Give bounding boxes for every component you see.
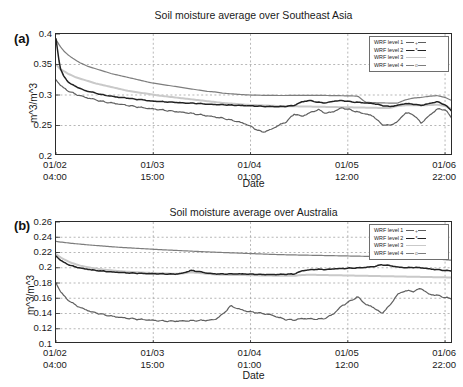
x-tick-time: 15:00: [127, 171, 177, 183]
legend-label: WRF level 4: [374, 62, 403, 70]
y-tick-label: 0.3: [18, 90, 52, 100]
chart-panel-b: (b) Soil moisture average over Australia…: [0, 193, 463, 387]
legend-item[interactable]: WRF level 1+: [374, 227, 445, 235]
y-tick-label: 0.12: [18, 323, 52, 333]
legend-item[interactable]: WRF level 4o: [374, 62, 445, 70]
legend-line-sample: o: [406, 250, 426, 258]
legend-item[interactable]: WRF level 2*: [374, 235, 445, 243]
legend-line-sample: [406, 242, 426, 250]
y-tick-label: 0.35: [18, 59, 52, 69]
x-tick-date: 01/03: [127, 347, 177, 359]
legend-line-sample: [406, 54, 426, 62]
legend-marker-circle-icon: o: [414, 251, 418, 256]
y-tick-label: 0.18: [18, 278, 52, 288]
chart-title-a: Soil moisture average over Southeast Asi…: [55, 9, 452, 21]
legend-label: WRF level 2: [374, 47, 403, 55]
y-tick-label: 0.22: [18, 247, 52, 257]
x-tick-time: 22:00: [419, 171, 463, 183]
legend-line-sample: +: [406, 39, 426, 47]
x-tick-date: 01/02: [30, 347, 80, 359]
y-tick-label: 0.25: [18, 120, 52, 130]
x-tick-time: 12:00: [322, 359, 372, 371]
x-tick-label: 01/0512:00: [322, 159, 372, 183]
x-tick-date: 01/03: [127, 159, 177, 171]
x-tick-label: 01/0622:00: [419, 159, 463, 183]
x-tick-label: 01/0622:00: [419, 347, 463, 371]
x-tick-label: 01/0315:00: [127, 347, 177, 371]
x-tick-time: 12:00: [322, 171, 372, 183]
legend-marker-plus-icon: +: [414, 40, 418, 45]
x-tick-date: 01/05: [322, 159, 372, 171]
chart-title-b: Soil moisture average over Australia: [55, 206, 452, 218]
x-tick-time: 22:00: [419, 359, 463, 371]
y-tick-label: 0.4: [18, 29, 52, 39]
legend-line-sample: o: [406, 62, 426, 70]
x-tick-label: 01/0204:00: [30, 159, 80, 183]
x-tick-label: 01/0204:00: [30, 347, 80, 371]
x-tick-label: 01/0401:00: [225, 159, 275, 183]
x-tick-time: 04:00: [30, 359, 80, 371]
legend-item[interactable]: WRF level 3: [374, 242, 445, 250]
y-tick-label: 0.14: [18, 308, 52, 318]
legend-label: WRF level 2: [374, 235, 403, 243]
legend-label: WRF level 3: [374, 54, 403, 62]
legend-marker-plus-icon: +: [414, 228, 418, 233]
legend-item[interactable]: WRF level 3: [374, 54, 445, 62]
y-tick-label: 0.26: [18, 217, 52, 227]
x-tick-label: 01/0315:00: [127, 159, 177, 183]
x-tick-date: 01/04: [225, 159, 275, 171]
x-tick-label: 01/0401:00: [225, 347, 275, 371]
x-tick-date: 01/04: [225, 347, 275, 359]
legend-label: WRF level 3: [374, 242, 403, 250]
legend-line-sample: *: [406, 235, 426, 243]
legend-marker-star-icon: *: [415, 236, 418, 241]
legend-label: WRF level 1: [374, 39, 403, 47]
legend-label: WRF level 4: [374, 250, 403, 258]
x-tick-date: 01/02: [30, 159, 80, 171]
x-tick-date: 01/06: [419, 347, 463, 359]
x-tick-time: 15:00: [127, 359, 177, 371]
x-tick-date: 01/06: [419, 159, 463, 171]
y-tick-label: 0.16: [18, 293, 52, 303]
legend-marker-star-icon: *: [415, 48, 418, 53]
legend-marker-circle-icon: o: [414, 63, 418, 68]
x-axis-label-b: Date: [55, 369, 452, 381]
legend-b[interactable]: WRF level 1+WRF level 2*WRF level 3WRF l…: [369, 224, 449, 260]
legend-label: WRF level 1: [374, 227, 403, 235]
legend-a[interactable]: WRF level 1+WRF level 2*WRF level 3WRF l…: [369, 36, 449, 72]
y-tick-label: 0.24: [18, 232, 52, 242]
legend-item[interactable]: WRF level 4o: [374, 250, 445, 258]
legend-item[interactable]: WRF level 2*: [374, 47, 445, 55]
x-tick-label: 01/0512:00: [322, 347, 372, 371]
x-tick-time: 01:00: [225, 171, 275, 183]
chart-panel-a: (a) Soil moisture average over Southeast…: [0, 0, 463, 194]
x-tick-time: 04:00: [30, 171, 80, 183]
y-tick-label: 0.2: [18, 262, 52, 272]
legend-item[interactable]: WRF level 1+: [374, 39, 445, 47]
legend-line-sample: *: [406, 47, 426, 55]
x-tick-time: 01:00: [225, 359, 275, 371]
x-tick-date: 01/05: [322, 347, 372, 359]
legend-line-sample: +: [406, 227, 426, 235]
